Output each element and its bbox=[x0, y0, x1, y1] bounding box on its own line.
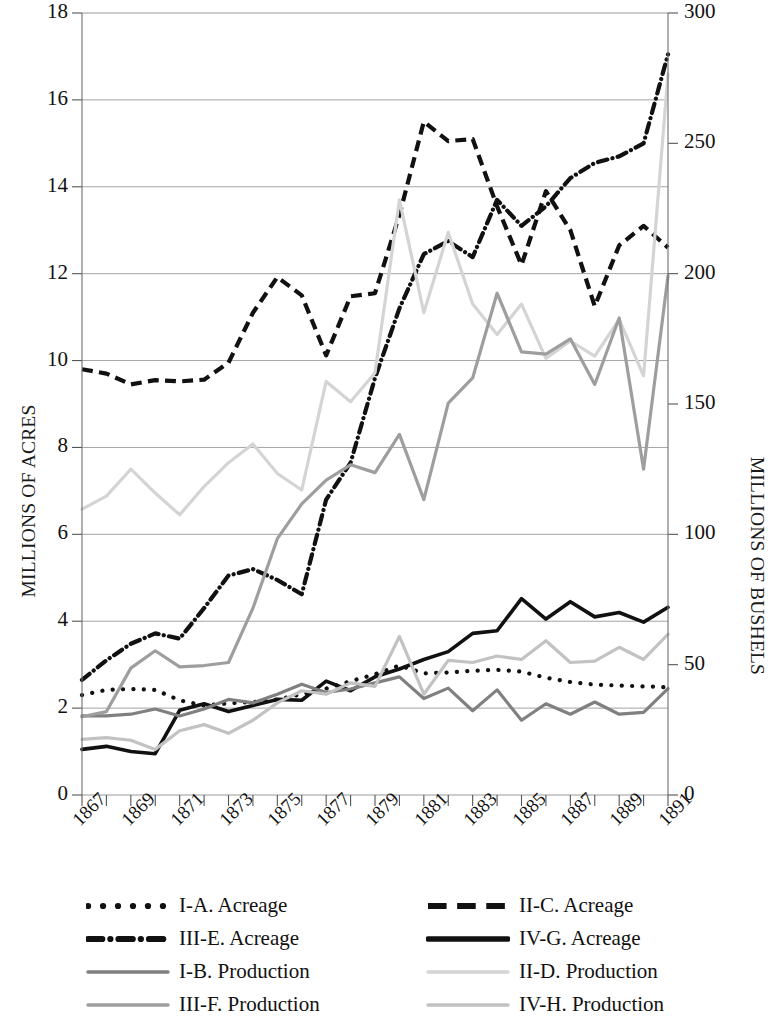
chart-figure: MILLIONS OF ACRES MILLIONS OF BUSHELS 02… bbox=[0, 0, 777, 1024]
legend-label: II-D. Production bbox=[519, 961, 658, 982]
legend-entry: I-B. Production bbox=[86, 955, 426, 988]
legend-swatch-dashed bbox=[426, 899, 510, 913]
legend-entry: III-F. Production bbox=[86, 988, 426, 1021]
y-axis-left-tick-label: 6 bbox=[24, 520, 68, 545]
legend-entry: II-C. Acreage bbox=[426, 889, 726, 922]
legend-swatch-solid bbox=[426, 965, 510, 979]
legend-entry: IV-H. Production bbox=[426, 988, 726, 1021]
series-line bbox=[82, 599, 668, 754]
legend-swatch-solid bbox=[426, 998, 510, 1012]
legend-label: I-B. Production bbox=[179, 961, 310, 982]
series-line bbox=[82, 122, 668, 385]
y-axis-left-tick-label: 12 bbox=[24, 260, 68, 285]
legend-label: IV-G. Acreage bbox=[519, 928, 641, 949]
legend-swatch-solid bbox=[86, 965, 170, 979]
y-axis-left-tick-label: 14 bbox=[24, 173, 68, 198]
y-axis-left-tick-label: 4 bbox=[24, 607, 68, 632]
data-series bbox=[82, 54, 668, 753]
y-axis-left-tick-label: 0 bbox=[24, 781, 68, 806]
y-axis-right-tick-label: 150 bbox=[684, 390, 734, 415]
series-line bbox=[82, 634, 668, 749]
legend-swatch-dotted bbox=[86, 899, 170, 913]
y-axis-right-tick-label: 100 bbox=[684, 520, 734, 545]
legend-label: III-E. Acreage bbox=[179, 928, 299, 949]
legend-entry: IV-G. Acreage bbox=[426, 922, 726, 955]
y-axis-left-tick-label: 2 bbox=[24, 694, 68, 719]
legend-entry: II-D. Production bbox=[426, 955, 726, 988]
legend-swatch-solid bbox=[86, 998, 170, 1012]
legend-label: IV-H. Production bbox=[519, 994, 664, 1015]
y-axis-left-ticks bbox=[72, 13, 82, 795]
chart-canvas bbox=[0, 0, 777, 1024]
y-axis-right-tick-label: 300 bbox=[684, 0, 734, 24]
chart-legend: I-A. AcreageII-C. AcreageIII-E. AcreageI… bbox=[86, 889, 726, 1021]
y-axis-right-title: MILLIONS OF BUSHELS bbox=[746, 376, 768, 756]
y-axis-left-tick-label: 10 bbox=[24, 347, 68, 372]
series-line bbox=[82, 276, 668, 717]
legend-entry: III-E. Acreage bbox=[86, 922, 426, 955]
legend-label: II-C. Acreage bbox=[519, 895, 633, 916]
y-axis-right-tick-label: 250 bbox=[684, 129, 734, 154]
y-axis-right-tick-label: 50 bbox=[684, 651, 734, 676]
y-axis-right-ticks bbox=[668, 13, 678, 795]
legend-label: III-F. Production bbox=[179, 994, 320, 1015]
y-axis-left-tick-label: 16 bbox=[24, 86, 68, 111]
legend-entry: I-A. Acreage bbox=[86, 889, 426, 922]
legend-swatch-dashdot bbox=[86, 932, 170, 946]
y-axis-left-tick-label: 8 bbox=[24, 433, 68, 458]
legend-swatch-solid bbox=[426, 932, 510, 946]
y-axis-left-tick-label: 18 bbox=[24, 0, 68, 24]
y-axis-right-tick-label: 200 bbox=[684, 260, 734, 285]
legend-label: I-A. Acreage bbox=[179, 895, 287, 916]
